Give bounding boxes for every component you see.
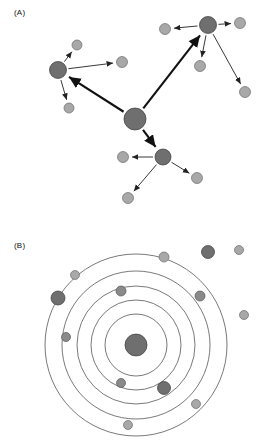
network-leaf-node [118,152,129,163]
network-hub-node [155,149,171,165]
figure-root: (A) (B) [0,0,268,446]
network-edge [172,162,190,173]
panel-b: (B) [0,223,268,446]
network-edge [69,77,124,112]
ring-satellite-node [117,379,126,388]
network-edge [218,24,231,25]
ring-satellite-node [62,333,71,342]
ring-satellite-node [240,311,249,320]
ring-satellite-node [124,421,133,430]
ring-satellite-node [202,246,215,259]
panel-a: (A) [0,0,268,223]
panel-a-network-graphic [0,0,268,223]
ring-satellite-node [71,271,80,280]
network-edge [143,130,156,147]
network-leaf-node [192,173,203,184]
network-edge [68,63,113,69]
network-leaf-node [117,57,128,68]
ring-satellite-node [158,382,171,395]
ring-satellite-node [116,286,126,296]
ring-satellite-node [192,400,201,409]
network-leaf-node [72,40,82,50]
network-edge [174,26,198,28]
ring-satellite-node [159,252,169,262]
network-edge [134,165,157,192]
network-leaf-node [160,24,171,35]
network-leaf-node [123,193,134,204]
network-hub-node [50,62,67,79]
network-hub-node [124,108,146,130]
network-edge [202,35,206,57]
panel-b-rings-graphic [0,223,268,446]
network-leaf-node [240,87,251,98]
network-leaf-node [64,103,74,113]
ring-center-node [125,334,147,356]
network-edge [213,34,241,84]
network-hub-node [200,17,217,34]
panel-a-edge-layer [61,24,241,192]
ring-satellite-node [195,291,205,301]
network-edge [61,80,67,100]
ring-satellite-node [235,246,244,255]
ring-satellite-node [51,291,65,305]
network-edge [143,35,200,108]
panel-a-node-layer [50,17,251,204]
network-leaf-node [235,18,246,29]
network-edge [64,52,72,62]
network-leaf-node [195,61,206,72]
